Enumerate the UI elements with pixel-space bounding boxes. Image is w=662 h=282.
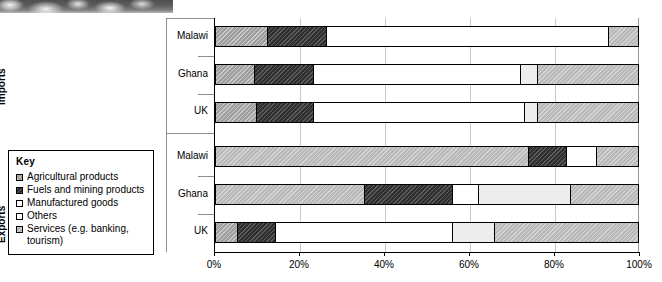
x-tick-0 bbox=[214, 252, 215, 256]
x-tick-label-80: 80% bbox=[531, 259, 577, 270]
segment-services bbox=[494, 223, 637, 242]
segment-agricultural-products bbox=[216, 185, 364, 204]
bar-exports-malawi bbox=[215, 146, 639, 167]
bar-imports-ghana bbox=[215, 64, 639, 85]
segment-fuels-and-mining-products bbox=[256, 103, 313, 122]
segment-fuels-and-mining-products bbox=[528, 147, 566, 166]
segment-others bbox=[520, 65, 537, 84]
legend-key-box: Key Agricultural products Fuels and mini… bbox=[8, 150, 154, 255]
legend-item-label: Others bbox=[27, 210, 57, 222]
segment-fuels-and-mining-products bbox=[267, 27, 326, 46]
segment-others bbox=[524, 103, 537, 122]
bar-imports-malawi bbox=[215, 26, 639, 47]
legend-item-fuels-and-mining-products: Fuels and mining products bbox=[15, 184, 147, 196]
legend-item-others: Others bbox=[15, 210, 147, 222]
segment-fuels-and-mining-products bbox=[364, 185, 453, 204]
category-label-exports-uk: UK bbox=[148, 225, 208, 236]
category-label-imports-malawi: Malawi bbox=[148, 30, 208, 41]
x-tick-80 bbox=[554, 252, 555, 256]
legend-item-services: Services (e.g. banking, tourism) bbox=[15, 223, 147, 247]
others-swatch-icon bbox=[16, 213, 23, 220]
segment-manufactured-goods bbox=[313, 65, 520, 84]
segment-services bbox=[570, 185, 638, 204]
segment-agricultural-products bbox=[216, 147, 528, 166]
x-tick-label-60: 60% bbox=[446, 259, 492, 270]
gridline-60 bbox=[470, 18, 471, 252]
segment-agricultural-products bbox=[216, 27, 267, 46]
group-label-exports: Exports bbox=[0, 206, 7, 243]
category-label-imports-ghana: Ghana bbox=[148, 68, 208, 79]
gridline-40 bbox=[385, 18, 386, 252]
segment-services bbox=[537, 103, 638, 122]
segment-agricultural-products bbox=[216, 103, 256, 122]
segment-agricultural-products bbox=[216, 65, 254, 84]
segment-manufactured-goods bbox=[566, 147, 596, 166]
segment-manufactured-goods bbox=[452, 185, 477, 204]
segment-services bbox=[537, 65, 638, 84]
photo-fragment bbox=[0, 0, 173, 13]
category-separator bbox=[198, 94, 214, 95]
group-separator bbox=[166, 133, 214, 134]
x-tick-label-40: 40% bbox=[361, 259, 407, 270]
gridline-100 bbox=[638, 18, 639, 252]
segment-services bbox=[596, 147, 638, 166]
bar-exports-uk bbox=[215, 222, 639, 243]
category-separator bbox=[198, 176, 214, 177]
fuels-and-mining-products-swatch-icon bbox=[16, 187, 23, 194]
x-tick-60 bbox=[469, 252, 470, 256]
agricultural-products-swatch-icon bbox=[16, 174, 23, 181]
x-tick-label-100: 100% bbox=[616, 259, 662, 270]
segment-manufactured-goods bbox=[313, 103, 524, 122]
x-tick-label-20: 20% bbox=[276, 259, 322, 270]
bar-imports-uk bbox=[215, 102, 639, 123]
legend-item-label: Manufactured goods bbox=[27, 197, 118, 209]
plot-area bbox=[214, 18, 639, 252]
gridline-20 bbox=[300, 18, 301, 252]
group-label-imports: Imports bbox=[0, 68, 7, 105]
segment-fuels-and-mining-products bbox=[237, 223, 275, 242]
category-separator bbox=[198, 56, 214, 57]
manufactured-goods-swatch-icon bbox=[16, 200, 23, 207]
legend-item-label: Agricultural products bbox=[27, 171, 118, 183]
segment-others bbox=[452, 223, 494, 242]
x-tick-100 bbox=[639, 252, 640, 256]
segment-manufactured-goods bbox=[275, 223, 452, 242]
segment-others bbox=[478, 185, 571, 204]
group-axis-line bbox=[166, 18, 167, 252]
category-separator bbox=[198, 214, 214, 215]
legend-item-label: Fuels and mining products bbox=[27, 184, 144, 196]
segment-manufactured-goods bbox=[326, 27, 609, 46]
legend-title: Key bbox=[16, 156, 147, 167]
x-tick-40 bbox=[384, 252, 385, 256]
category-label-imports-uk: UK bbox=[148, 105, 208, 116]
category-label-exports-malawi: Malawi bbox=[148, 150, 208, 161]
x-tick-20 bbox=[299, 252, 300, 256]
legend-item-manufactured-goods: Manufactured goods bbox=[15, 197, 147, 209]
x-tick-label-0: 0% bbox=[191, 259, 237, 270]
gridline-80 bbox=[555, 18, 556, 252]
segment-services bbox=[608, 27, 638, 46]
group-separator bbox=[166, 18, 214, 19]
bar-exports-ghana bbox=[215, 184, 639, 205]
segment-agricultural-products bbox=[216, 223, 237, 242]
x-axis-line bbox=[214, 252, 640, 253]
segment-fuels-and-mining-products bbox=[254, 65, 313, 84]
legend-item-agricultural-products: Agricultural products bbox=[15, 171, 147, 183]
services-swatch-icon bbox=[16, 226, 23, 233]
legend-item-label: Services (e.g. banking, tourism) bbox=[27, 223, 147, 247]
category-label-exports-ghana: Ghana bbox=[148, 188, 208, 199]
